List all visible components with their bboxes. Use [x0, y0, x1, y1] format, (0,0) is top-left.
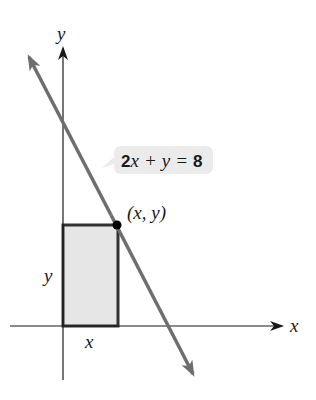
- rect-width-label: x: [84, 331, 94, 352]
- line-2x-plus-y-equals-8-upper: [29, 57, 111, 215]
- equation-var-y: y: [160, 150, 171, 171]
- equation-rhs: 8: [193, 152, 202, 171]
- point-xy: [113, 221, 122, 230]
- x-axis-label: x: [289, 315, 299, 336]
- point-label: (x, y): [127, 202, 166, 224]
- equation-plus: +: [144, 150, 157, 171]
- shaded-rectangle: [63, 225, 118, 326]
- equation-var-x: x: [129, 150, 139, 171]
- equation-coef: 2: [121, 152, 130, 171]
- equation-equals: =: [175, 150, 188, 171]
- diagram-canvas: y x y x (x, y) 2x+y=8: [0, 0, 316, 400]
- rect-height-label: y: [42, 265, 53, 286]
- line-2x-plus-y-equals-8: [111, 215, 193, 374]
- y-axis-label: y: [55, 23, 66, 44]
